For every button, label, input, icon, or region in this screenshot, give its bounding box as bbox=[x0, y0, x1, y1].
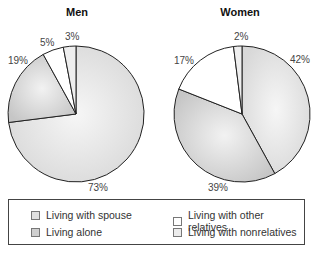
legend-item-alone: Living alone bbox=[31, 226, 102, 238]
label-men-nonrelatives: 3% bbox=[65, 31, 79, 42]
legend-item-spouse: Living with spouse bbox=[31, 209, 132, 221]
label-women-nonrelatives: 2% bbox=[234, 31, 248, 42]
legend-swatch-spouse bbox=[31, 211, 40, 220]
legend-label: Living alone bbox=[46, 226, 102, 238]
chart-title-women: Women bbox=[190, 6, 290, 18]
label-men-other-relatives: 5% bbox=[40, 37, 54, 48]
legend-swatch-other-relatives bbox=[173, 217, 182, 226]
label-men-alone: 19% bbox=[8, 55, 28, 66]
label-women-spouse: 42% bbox=[290, 54, 310, 65]
legend-label: Living with nonrelatives bbox=[188, 226, 297, 238]
chart-title-men: Men bbox=[27, 6, 127, 18]
legend-swatch-nonrelatives bbox=[173, 228, 182, 237]
legend: Living with spouse Living alone Living w… bbox=[8, 199, 305, 245]
legend-swatch-alone bbox=[31, 228, 40, 237]
legend-label: Living with spouse bbox=[46, 209, 132, 221]
legend-item-nonrelatives: Living with nonrelatives bbox=[173, 226, 297, 238]
label-women-alone: 39% bbox=[208, 182, 228, 193]
label-men-spouse: 73% bbox=[88, 182, 108, 193]
label-women-other-relatives: 17% bbox=[174, 55, 194, 66]
